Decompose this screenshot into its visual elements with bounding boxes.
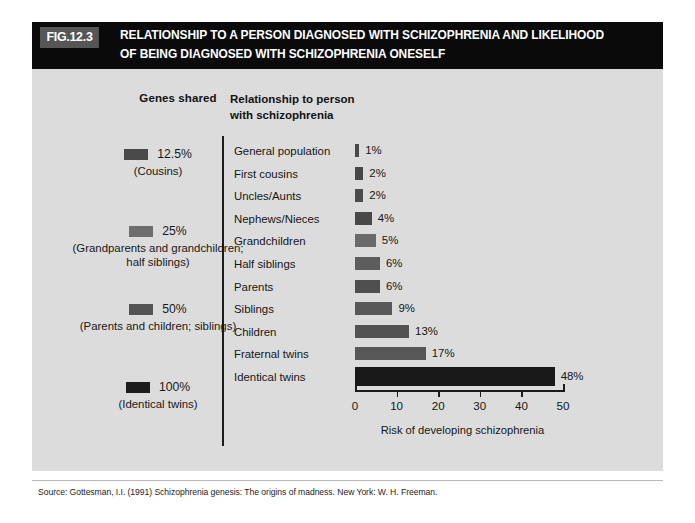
bar-value-label: 5% (382, 235, 398, 246)
relationship-label: Nephews/Nieces (234, 214, 319, 225)
x-axis-tick (480, 390, 482, 397)
genes-shared-detail: (Grandparents and grandchildren; half si… (70, 241, 246, 270)
bar-value-label: 6% (386, 281, 402, 292)
bar-chart: General population1%First cousins2%Uncle… (230, 136, 630, 456)
x-axis-tick-label: 10 (390, 400, 403, 412)
chart-bar (355, 189, 363, 202)
relationship-label: Half siblings (234, 259, 295, 270)
source-citation: Source: Gottesman, I.I. (1991) Schizophr… (38, 487, 437, 497)
genes-shared-percent: 25% (162, 224, 186, 240)
bar-value-label: 9% (398, 303, 414, 314)
x-axis-tick-label: 20 (432, 400, 445, 412)
relationship-label: Grandchildren (234, 236, 306, 247)
genes-shared-row: 100% (70, 380, 246, 396)
chart-bar (355, 347, 426, 360)
genes-shared-detail: (Identical twins) (70, 397, 246, 412)
bar-value-label: 1% (365, 145, 381, 156)
relationship-label: Identical twins (234, 372, 306, 383)
x-axis-tick-label: 50 (557, 400, 570, 412)
x-axis-title: Risk of developing schizophrenia (355, 424, 570, 436)
relationship-label: Siblings (234, 304, 274, 315)
genes-shared-row: 12.5% (70, 147, 246, 163)
genes-shared-swatch-icon (129, 226, 153, 237)
relationship-label: General population (234, 146, 330, 157)
genes-shared-detail: (Parents and children; siblings) (70, 319, 246, 334)
chart-bar (355, 280, 380, 293)
relationship-label: Parents (234, 282, 273, 293)
chart-bar (355, 144, 359, 157)
relationship-label: Children (234, 327, 276, 338)
bar-value-label: 48% (561, 371, 584, 382)
figure-title: RELATIONSHIP TO A PERSON DIAGNOSED WITH … (120, 26, 604, 64)
figure-number-tag: FIG.12.3 (40, 27, 99, 48)
bar-value-label: 6% (386, 258, 402, 269)
chart-bar (355, 302, 392, 315)
figure-container: FIG.12.3 RELATIONSHIP TO A PERSON DIAGNO… (0, 0, 695, 523)
genes-shared-percent: 100% (159, 380, 190, 396)
genes-shared-swatch-icon (124, 149, 148, 160)
genes-shared-group: 100%(Identical twins) (70, 380, 246, 411)
bar-value-label: 2% (369, 190, 385, 201)
genes-shared-group: 25%(Grandparents and grandchildren; half… (70, 224, 246, 270)
x-axis-line (355, 390, 563, 392)
relationship-label: Fraternal twins (234, 349, 309, 360)
chart-bar (355, 257, 380, 270)
figure-header-banner: FIG.12.3 RELATIONSHIP TO A PERSON DIAGNO… (32, 22, 663, 69)
genes-shared-row: 25% (70, 224, 246, 240)
relationship-label: Uncles/Aunts (234, 191, 301, 202)
x-axis-tick (355, 384, 357, 392)
x-axis-tick (563, 384, 565, 392)
bar-value-label: 13% (415, 326, 438, 337)
chart-bar (355, 325, 409, 338)
genes-shared-group: 50%(Parents and children; siblings) (70, 302, 246, 333)
genes-shared-group: 12.5%(Cousins) (70, 147, 246, 178)
x-axis-tick-label: 0 (352, 400, 358, 412)
figure-title-line-2: OF BEING DIAGNOSED WITH SCHIZOPHRENIA ON… (120, 45, 604, 64)
source-divider (32, 480, 663, 481)
chart-panel: Genes shared Relationship to person with… (32, 69, 663, 471)
chart-bar (355, 367, 555, 386)
genes-shared-header: Genes shared (108, 92, 248, 104)
relationship-header: Relationship to person with schizophreni… (230, 92, 360, 124)
genes-shared-swatch-icon (129, 304, 153, 315)
chart-bar (355, 167, 363, 180)
relationship-label: First cousins (234, 169, 298, 180)
bar-value-label: 17% (432, 348, 455, 359)
genes-shared-swatch-icon (126, 382, 150, 393)
figure-title-line-1: RELATIONSHIP TO A PERSON DIAGNOSED WITH … (120, 26, 604, 45)
x-axis-tick (521, 390, 523, 397)
bar-value-label: 2% (369, 168, 385, 179)
genes-shared-percent: 12.5% (157, 147, 192, 163)
genes-shared-percent: 50% (162, 302, 186, 318)
chart-bar (355, 212, 372, 225)
genes-shared-row: 50% (70, 302, 246, 318)
chart-bar (355, 234, 376, 247)
genes-shared-detail: (Cousins) (70, 164, 246, 179)
bar-value-label: 4% (378, 213, 394, 224)
x-axis-tick-label: 30 (473, 400, 486, 412)
x-axis-tick (397, 390, 399, 397)
x-axis-tick (438, 390, 440, 397)
x-axis-tick-label: 40 (515, 400, 528, 412)
